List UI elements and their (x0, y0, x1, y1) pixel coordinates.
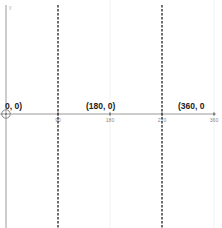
point-label-360: (360, 0 (178, 101, 205, 111)
graph-plot: y 90 180 270 360 0, 0) (180, 0) (360, 0 (0, 0, 222, 228)
x-tick-label-180: 180 (106, 117, 115, 123)
point-marker-180 (109, 113, 111, 115)
point-marker-360 (213, 113, 215, 115)
point-label-origin: 0, 0) (5, 101, 22, 111)
y-axis-label: y (9, 4, 12, 10)
point-label-180: (180, 0) (86, 101, 115, 111)
origin-point-dot (5, 113, 7, 115)
x-tick-label-360: 360 (210, 117, 219, 123)
